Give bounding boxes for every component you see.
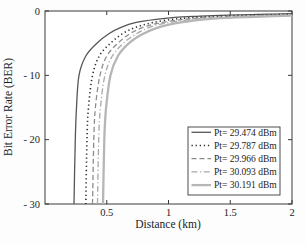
- y-axis-label: Bit Error Rate (BER): [2, 58, 15, 156]
- legend-entry-label-3: Pt= 30.093 dBm: [214, 167, 277, 177]
- legend-entry-label-0: Pt= 29.474 dBm: [214, 128, 277, 138]
- legend-entry-label-4: Pt= 30.191 dBm: [214, 180, 277, 190]
- x-tick-label: 0.5: [100, 207, 113, 218]
- y-tick-label: - 20: [23, 134, 40, 145]
- x-tick-label: 1.5: [224, 207, 237, 218]
- y-tick-label: - 30: [23, 199, 40, 210]
- legend-entry-label-2: Pt= 29.966 dBm: [214, 154, 277, 164]
- y-tick-label: 0: [35, 6, 40, 17]
- x-tick-label: 2: [289, 207, 294, 218]
- legend: Pt= 29.474 dBmPt= 29.787 dBmPt= 29.966 d…: [188, 127, 280, 195]
- y-tick-label: - 10: [23, 70, 40, 81]
- chart-canvas: 0.511.520- 10- 20- 30 Distance (km) Bit …: [0, 0, 306, 244]
- x-tick-label: 1: [166, 207, 171, 218]
- x-axis-label: Distance (km): [135, 218, 201, 231]
- ber-vs-distance-chart: 0.511.520- 10- 20- 30 Distance (km) Bit …: [0, 0, 306, 244]
- legend-entry-label-1: Pt= 29.787 dBm: [214, 141, 277, 151]
